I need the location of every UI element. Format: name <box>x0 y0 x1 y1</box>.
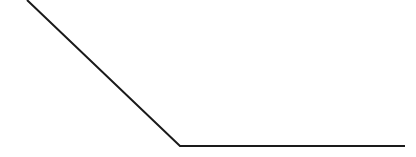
drawing-canvas <box>0 0 416 157</box>
line-drawing-figure <box>0 0 416 157</box>
canvas-background <box>0 0 416 157</box>
